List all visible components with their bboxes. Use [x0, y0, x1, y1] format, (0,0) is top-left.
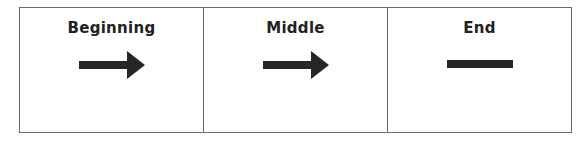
story-structure-table: Beginning Middle End — [19, 7, 572, 133]
cell-end: End — [387, 8, 571, 132]
cell-label-beginning: Beginning — [20, 19, 203, 37]
cell-label-end: End — [388, 19, 571, 37]
cell-beginning: Beginning — [20, 8, 203, 132]
cell-label-middle: Middle — [204, 19, 387, 37]
horizontal-line-icon — [447, 60, 513, 68]
right-arrow-icon — [263, 51, 329, 79]
right-arrow-icon — [79, 51, 145, 79]
cell-middle: Middle — [203, 8, 387, 132]
